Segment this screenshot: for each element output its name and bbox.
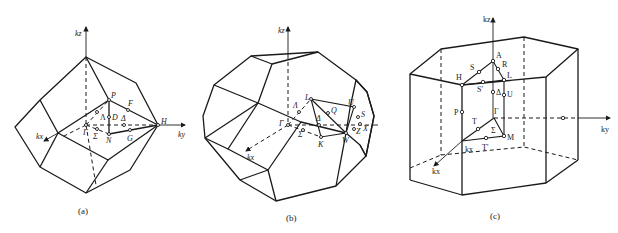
point-X-b (359, 123, 362, 126)
point-U-c (502, 93, 505, 96)
point-A-c (491, 59, 494, 62)
svg-text:Σ: Σ (491, 126, 496, 135)
point-G-a (129, 129, 132, 132)
point-Delta-b (318, 124, 321, 127)
svg-text:U: U (507, 90, 513, 99)
caption-a: (a) (78, 206, 88, 216)
svg-text:G: G (127, 134, 133, 143)
point-W-b (345, 132, 348, 135)
point-H-a (157, 124, 160, 127)
kx-axis-b (246, 147, 252, 151)
svg-text:S: S (470, 63, 474, 72)
point-M-c (502, 134, 505, 137)
svg-text:W: W (342, 136, 350, 145)
panel-a-bcc-zone: kz ky kx P F Λ D Δ H Γ Σ N G (a) (15, 27, 186, 216)
svg-text:Δ: Δ (496, 88, 501, 97)
point-Delta-c (491, 90, 494, 93)
svg-text:N: N (105, 136, 112, 145)
svg-text:S': S' (477, 85, 483, 94)
svg-text:H: H (456, 73, 462, 82)
kx-label-c: kx (432, 167, 440, 176)
point-Lambda-a (96, 111, 99, 114)
point-Delta-a (123, 124, 126, 127)
kz-label-b: kz (278, 26, 286, 35)
svg-text:P: P (110, 91, 116, 100)
point-D-a (108, 116, 111, 119)
caption-b: (b) (286, 213, 297, 223)
point-R-c (496, 67, 499, 70)
svg-text:Γ: Γ (82, 128, 88, 137)
point-Gamma-a (85, 124, 88, 127)
svg-text:T': T' (482, 143, 489, 152)
point-T-c (476, 127, 479, 130)
svg-text:Γ: Γ (494, 107, 499, 116)
svg-text:Λ: Λ (292, 101, 298, 110)
point-S-c (477, 70, 480, 73)
point-Sigma-a (96, 128, 99, 131)
svg-text:T: T (472, 117, 477, 126)
svg-text:F: F (127, 99, 133, 108)
svg-text:Σ: Σ (297, 130, 303, 139)
point-Gamma-b (287, 124, 290, 127)
svg-text:Γ: Γ (278, 119, 284, 128)
svg-text:L: L (304, 93, 310, 102)
caption-c: (c) (490, 211, 500, 221)
point-Lambda-b (298, 111, 301, 114)
svg-text:Σ: Σ (92, 132, 98, 141)
svg-text:P: P (454, 108, 459, 117)
point-S-prime-c (481, 80, 484, 83)
svg-text:Δ: Δ (120, 114, 126, 123)
point-H-c (460, 83, 463, 86)
point-Q-b (327, 112, 330, 115)
kz-label-a: kz (75, 29, 83, 38)
panel-b-fcc-zone: kz kx L Λ Q U S Γ Δ Σ K W Z X (b) (203, 26, 378, 223)
kx-label-b: kx (247, 153, 255, 162)
svg-text:Z: Z (356, 127, 361, 136)
point-T-prime-c (484, 136, 487, 139)
svg-text:D: D (111, 113, 118, 122)
svg-text:Λ: Λ (100, 113, 106, 122)
kz-label-c: kz (483, 15, 491, 24)
svg-text:S: S (361, 110, 365, 119)
svg-text:A: A (496, 51, 502, 60)
point-L-b (310, 98, 313, 101)
kx-corner-label-c: kx (465, 145, 473, 154)
point-F-a (127, 109, 130, 112)
svg-text:L: L (507, 71, 512, 80)
ky-label-a: ky (178, 130, 186, 139)
point-ky-marker-c (561, 116, 564, 119)
svg-text:Q: Q (331, 106, 337, 115)
svg-text:K: K (317, 140, 324, 149)
brillouin-zones-figure: kz ky kx P F Λ D Δ H Γ Σ N G (a) (0, 0, 618, 233)
point-S-b (357, 116, 360, 119)
ky-label-c: ky (601, 125, 609, 134)
point-P-c (460, 110, 463, 113)
point-K-b (320, 136, 323, 139)
panel-c-hexagonal-zone: kz ky kx kx A S R H L S' Δ U P Γ T Σ M T… (410, 15, 610, 221)
svg-text:Δ: Δ (315, 114, 321, 123)
svg-text:R: R (502, 60, 508, 69)
point-L-c (502, 78, 505, 81)
svg-text:M: M (507, 133, 514, 142)
kx-label-a: kx (36, 132, 44, 141)
